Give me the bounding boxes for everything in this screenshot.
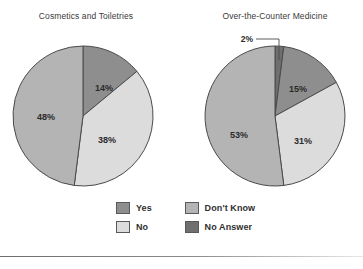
legend-label-dont-know: Don't Know: [205, 203, 256, 213]
pie-label-dont-know: 48%: [37, 112, 55, 122]
legend-item-dont-know: Don't Know: [185, 202, 266, 214]
chart-title-left: Cosmetics and Toiletries: [12, 11, 160, 21]
pie-chart-cosmetics: 14% 38% 48%: [8, 41, 158, 191]
pie-label-yes: 15%: [289, 84, 307, 94]
legend-swatch-yes: [116, 202, 130, 214]
legend-label-no: No: [136, 222, 148, 232]
legend-label-no-answer: No Answer: [205, 222, 253, 232]
pie-slice-dont-know: [205, 46, 284, 186]
legend-swatch-dont-know: [185, 202, 199, 214]
legend-swatch-no: [116, 221, 130, 233]
legend-label-yes: Yes: [136, 203, 152, 213]
pie-chart-otc-medicine: 2% 15% 31% 53%: [197, 38, 353, 194]
legend-swatch-no-answer: [185, 221, 199, 233]
pie-label-no: 38%: [98, 135, 116, 145]
pie-chart-figure: Cosmetics and Toiletries Over-the-Counte…: [0, 0, 363, 269]
chart-legend: Yes Don't Know No No Answer: [116, 202, 266, 233]
legend-item-no: No: [116, 221, 163, 233]
legend-item-yes: Yes: [116, 202, 163, 214]
pie-label-dont-know: 53%: [230, 130, 248, 140]
pie-label-no: 31%: [294, 136, 312, 146]
pie-label-no-answer: 2%: [241, 34, 254, 44]
legend-item-no-answer: No Answer: [185, 221, 266, 233]
chart-title-right: Over-the-Counter Medicine: [196, 11, 354, 21]
pie-label-yes: 14%: [95, 83, 113, 93]
footer-divider: [0, 256, 363, 257]
